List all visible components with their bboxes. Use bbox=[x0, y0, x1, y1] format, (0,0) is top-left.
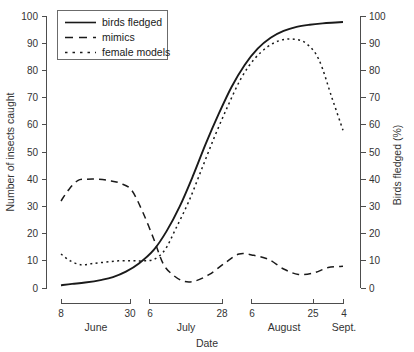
x-tick-sept-4: 4 bbox=[341, 308, 347, 319]
left-tick-0: 0 bbox=[32, 283, 38, 294]
left-tick-90: 90 bbox=[27, 38, 39, 49]
chart-figure: 100 90 80 70 60 50 40 30 20 10 0 Number … bbox=[0, 0, 414, 352]
x-month-august: August bbox=[268, 321, 301, 333]
x-tick-august-6: 6 bbox=[249, 308, 255, 319]
right-tick-80: 80 bbox=[369, 65, 381, 76]
legend: birds fledged mimics female models bbox=[58, 11, 171, 60]
right-tick-20: 20 bbox=[369, 228, 381, 239]
right-tick-100: 100 bbox=[369, 11, 386, 22]
right-tick-50: 50 bbox=[369, 147, 381, 158]
left-tick-80: 80 bbox=[27, 65, 39, 76]
x-month-july: July bbox=[177, 321, 196, 333]
right-axis-title: Birds fledged (%) bbox=[391, 125, 403, 206]
left-tick-40: 40 bbox=[27, 174, 39, 185]
legend-label-female-models: female models bbox=[102, 46, 170, 58]
right-tick-0: 0 bbox=[369, 283, 375, 294]
x-tick-july-28: 28 bbox=[216, 308, 228, 319]
right-tick-40: 40 bbox=[369, 174, 381, 185]
x-axis-title: Date bbox=[196, 337, 218, 349]
x-month-sept: Sept. bbox=[332, 321, 357, 333]
chart-canvas: 100 90 80 70 60 50 40 30 20 10 0 Number … bbox=[0, 0, 414, 352]
right-tick-10: 10 bbox=[369, 255, 381, 266]
right-tick-90: 90 bbox=[369, 38, 381, 49]
left-tick-100: 100 bbox=[21, 11, 38, 22]
series-line-birds-fledged bbox=[61, 22, 343, 285]
right-tick-30: 30 bbox=[369, 201, 381, 212]
x-tick-august-25: 25 bbox=[307, 308, 319, 319]
left-tick-50: 50 bbox=[27, 147, 39, 158]
legend-label-mimics: mimics bbox=[102, 31, 135, 43]
left-y-axis: 100 90 80 70 60 50 40 30 20 10 0 Number … bbox=[4, 11, 47, 294]
series-line-mimics bbox=[61, 179, 343, 282]
left-tick-60: 60 bbox=[27, 119, 39, 130]
x-tick-june-8: 8 bbox=[58, 308, 64, 319]
right-tick-70: 70 bbox=[369, 92, 381, 103]
legend-label-birds-fledged: birds fledged bbox=[102, 16, 162, 28]
left-axis-title: Number of insects caught bbox=[4, 92, 16, 211]
x-tick-july-6: 6 bbox=[147, 308, 153, 319]
x-month-june: June bbox=[85, 321, 108, 333]
x-tick-june-30: 30 bbox=[124, 308, 136, 319]
series-layer bbox=[61, 22, 343, 285]
left-tick-70: 70 bbox=[27, 92, 39, 103]
left-tick-30: 30 bbox=[27, 201, 39, 212]
left-tick-10: 10 bbox=[27, 255, 39, 266]
x-axis: 8 30 6 28 6 25 4 June July August Sept. … bbox=[58, 299, 356, 350]
left-tick-20: 20 bbox=[27, 228, 39, 239]
right-y-axis: 100 90 80 70 60 50 40 30 20 10 0 Birds f… bbox=[361, 11, 404, 294]
right-tick-60: 60 bbox=[369, 119, 381, 130]
